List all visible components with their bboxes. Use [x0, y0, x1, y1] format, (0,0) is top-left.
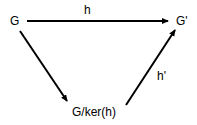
node-g-prime: G' — [176, 15, 188, 27]
node-quotient: G/ker(h) — [72, 106, 116, 118]
arrow-projection — [20, 31, 67, 101]
edge-label-h-prime: h' — [157, 70, 166, 82]
edge-label-h: h — [84, 4, 91, 16]
arrow-h-prime — [126, 30, 175, 105]
node-g: G — [10, 15, 19, 27]
